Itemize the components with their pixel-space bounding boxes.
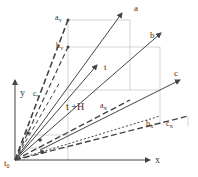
svg-text:cY: cY bbox=[33, 89, 41, 99]
svg-text:aX: aX bbox=[100, 101, 108, 111]
diagram-canvas: a b c t t +H aY bY cY aX bX cX x y t0 bbox=[0, 0, 198, 177]
svg-text:bY: bY bbox=[56, 41, 64, 51]
vector-t bbox=[15, 65, 97, 160]
x-axis-label: x bbox=[155, 154, 160, 165]
svg-text:aY: aY bbox=[55, 13, 63, 23]
y-axis-label: y bbox=[20, 87, 25, 98]
svg-text:t0: t0 bbox=[4, 158, 10, 169]
label-t: t bbox=[104, 62, 107, 72]
vector-bY bbox=[15, 47, 68, 160]
solid-vectors bbox=[15, 13, 180, 160]
labels: a b c t t +H aY bY cY aX bX cX x y t0 bbox=[4, 3, 178, 169]
label-tH: t +H bbox=[66, 101, 84, 112]
label-c: c bbox=[174, 68, 178, 78]
svg-text:bX: bX bbox=[146, 119, 154, 129]
points bbox=[26, 19, 69, 155]
label-a: a bbox=[134, 3, 138, 13]
vector-diagram: a b c t t +H aY bY cY aX bX cX x y t0 bbox=[0, 0, 198, 177]
vector-c bbox=[40, 80, 180, 150]
label-b: b bbox=[150, 30, 155, 40]
guide-lines bbox=[30, 20, 188, 160]
vector-a bbox=[15, 13, 122, 160]
